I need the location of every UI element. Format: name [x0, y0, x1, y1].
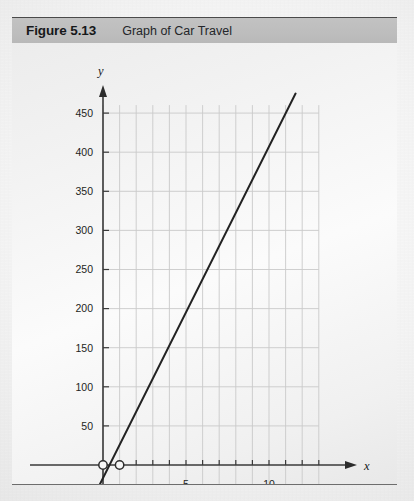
y-tick-label: 50: [81, 420, 93, 432]
figure-number: Figure 5.13: [26, 23, 96, 38]
x-tick-label: 5: [183, 478, 189, 484]
x-axis-tick-labels: 510: [183, 478, 275, 484]
figure-card: Figure 5.13 Graph of Car Travel 50100150…: [12, 17, 397, 485]
y-tick-label: 250: [75, 263, 93, 275]
open-circle-one: [115, 461, 123, 469]
y-tick-label: 150: [75, 342, 93, 354]
axes: [30, 85, 357, 484]
x-tick-label: 10: [263, 478, 275, 484]
x-axis-label: x: [363, 459, 370, 473]
y-axis-ticks: [103, 113, 109, 426]
x-axis-arrow-icon: [345, 461, 357, 469]
y-tick-label: 200: [75, 302, 93, 314]
y-tick-label: 400: [75, 146, 93, 158]
plot-area: 50100150200250300350400450 510 y x: [12, 43, 397, 484]
open-circle-origin: [99, 461, 107, 469]
y-axis-tick-labels: 50100150200250300350400450: [75, 107, 93, 432]
car-travel-line-chart: 50100150200250300350400450 510 y x: [12, 43, 397, 484]
figure-header-band: Figure 5.13 Graph of Car Travel: [12, 18, 397, 43]
y-tick-label: 300: [75, 224, 93, 236]
y-tick-label: 450: [75, 107, 93, 119]
y-axis-arrow-icon: [99, 85, 107, 97]
y-tick-label: 350: [75, 185, 93, 197]
y-tick-label: 100: [75, 381, 93, 393]
figure-title: Graph of Car Travel: [122, 24, 232, 38]
grid-lines: [103, 105, 319, 484]
y-axis-label: y: [96, 64, 104, 78]
